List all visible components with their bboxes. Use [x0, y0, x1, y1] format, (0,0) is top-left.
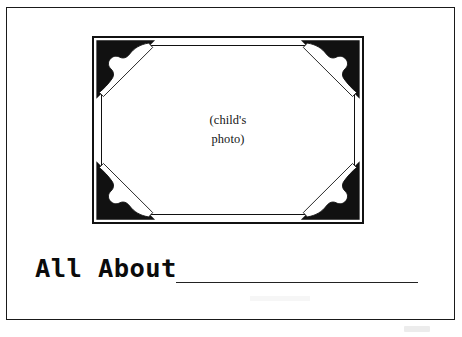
photo-placeholder-caption: (child's photo) — [94, 38, 362, 222]
photo-caption-line-2: photo) — [212, 130, 245, 149]
scan-artifact-lower-middle — [250, 296, 310, 301]
photo-frame[interactable]: (child's photo) — [92, 36, 364, 224]
photo-caption-line-1: (child's — [210, 111, 247, 130]
worksheet-page: (child's photo) All About — [0, 0, 462, 337]
title-row: All About — [35, 253, 425, 289]
page-title: All About — [35, 253, 177, 283]
child-name-blank-line[interactable] — [176, 282, 418, 283]
scan-artifact-bottom-right — [404, 326, 430, 332]
